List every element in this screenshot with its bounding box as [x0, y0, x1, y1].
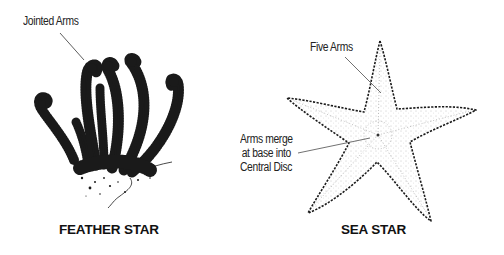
sea-star-illustration [287, 41, 476, 221]
feather-arm [124, 58, 144, 170]
central-disc-label-line-1: Arms merge [240, 132, 293, 146]
diagram-canvas [0, 0, 504, 255]
central-disc-label-line-3: Central Disc [240, 160, 293, 174]
feather-star-title: FEATHER STAR [59, 222, 159, 237]
jointed-arms-leader-line [60, 33, 84, 60]
central-disc-label-line-2: at base into [240, 146, 293, 160]
five-arms-label: Five Arms [310, 40, 353, 54]
rock-crack [108, 178, 132, 208]
sea-star-body [287, 41, 476, 221]
central-disc-label: Arms merge at base into Central Disc [240, 132, 293, 174]
sea-star-title: SEA STAR [341, 222, 406, 237]
feather-star-illustration [38, 33, 179, 208]
jointed-arms-label: Jointed Arms [23, 14, 79, 28]
sediment-dots [81, 177, 151, 197]
